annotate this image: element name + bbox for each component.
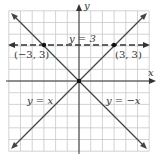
line-label-ynegx: y = −x [105, 95, 141, 106]
y-axis-label: y [83, 0, 90, 11]
point-neg3-3 [42, 43, 46, 47]
point-label-right: (3, 3) [115, 49, 142, 60]
point-origin [77, 79, 81, 83]
y-axis-arrow-icon [76, 4, 82, 11]
point-3-3 [112, 43, 116, 47]
line-label-y3: y = 3 [68, 33, 96, 44]
line-label-yx: y = x [26, 95, 53, 106]
x-axis-label: x [148, 67, 154, 78]
graph: y x y = 3 (−3, 3) (3, 3) y = x y = −x [0, 0, 162, 163]
x-axis-arrow-icon [149, 78, 156, 84]
point-label-left: (−3, 3) [14, 49, 49, 60]
